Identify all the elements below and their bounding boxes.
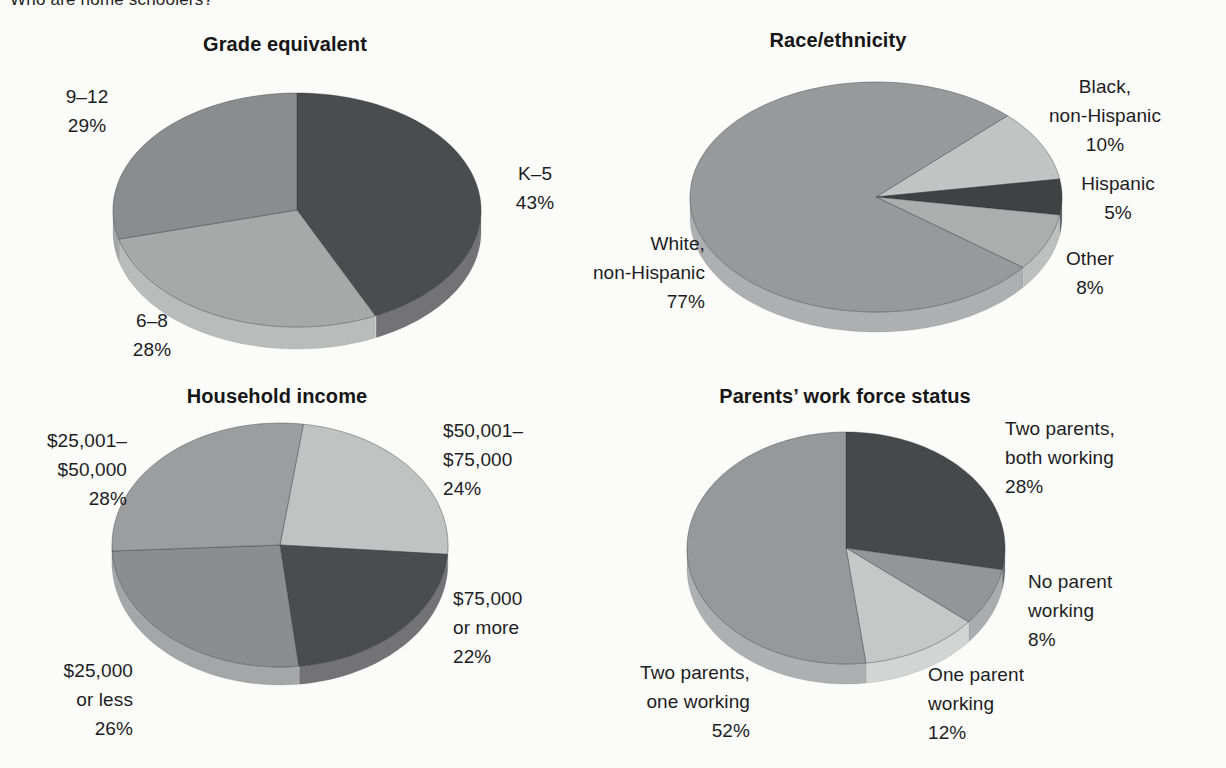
chart-title-household-income: Household income bbox=[127, 385, 427, 408]
label-line: 22% bbox=[453, 642, 593, 671]
slice-label-k-5: K–5 43% bbox=[485, 159, 585, 217]
label-line: or less bbox=[13, 685, 133, 714]
label-line: Black, bbox=[1030, 72, 1180, 101]
label-line: 8% bbox=[1015, 273, 1165, 302]
label-line: $25,000 bbox=[13, 656, 133, 685]
label-line: K–5 bbox=[485, 159, 585, 188]
slice-label-9-12: 9–12 29% bbox=[37, 82, 137, 140]
slice-label-black-non-hispanic: Black, non-Hispanic 10% bbox=[1030, 72, 1180, 159]
label-line: working bbox=[928, 689, 1058, 718]
label-line: 8% bbox=[1028, 625, 1158, 654]
pie-household-income bbox=[112, 423, 448, 685]
chart-title-grade-equivalent: Grade equivalent bbox=[135, 33, 435, 56]
chart-title-parents-work-force: Parents’ work force status bbox=[695, 385, 995, 408]
pie-race-ethnicity bbox=[690, 82, 1062, 332]
label-line: $50,000 bbox=[7, 455, 127, 484]
label-line: White, bbox=[555, 229, 705, 258]
label-line: 28% bbox=[1005, 472, 1145, 501]
label-line: 9–12 bbox=[37, 82, 137, 111]
slice-label-two-parents-both-working: Two parents, both working 28% bbox=[1005, 414, 1145, 501]
label-line: 43% bbox=[485, 188, 585, 217]
slice-label-75000-or-more: $75,000 or more 22% bbox=[453, 584, 593, 671]
slice-label-one-parent-working: One parent working 12% bbox=[928, 660, 1058, 747]
slice-label-25001-50000: $25,001– $50,000 28% bbox=[7, 426, 127, 513]
label-line: 52% bbox=[620, 716, 750, 745]
label-line: $50,001– bbox=[443, 416, 583, 445]
label-line: both working bbox=[1005, 443, 1145, 472]
label-line: $75,000 bbox=[443, 445, 583, 474]
label-line: 5% bbox=[1043, 198, 1193, 227]
label-line: 77% bbox=[555, 287, 705, 316]
label-line: $25,001– bbox=[7, 426, 127, 455]
label-line: $75,000 bbox=[453, 584, 593, 613]
label-line: or more bbox=[453, 613, 593, 642]
label-line: one working bbox=[620, 687, 750, 716]
label-line: One parent bbox=[928, 660, 1058, 689]
label-line: 28% bbox=[7, 484, 127, 513]
label-line: non-Hispanic bbox=[555, 258, 705, 287]
slice-label-white-non-hispanic: White, non-Hispanic 77% bbox=[555, 229, 705, 316]
label-line: 6–8 bbox=[102, 306, 202, 335]
scanned-figure-page: Who are home schoolers? Grade equivalent… bbox=[0, 0, 1226, 768]
slice-label-no-parent-working: No parent working 8% bbox=[1028, 567, 1158, 654]
label-line: non-Hispanic bbox=[1030, 101, 1180, 130]
chart-title-race-ethnicity: Race/ethnicity bbox=[688, 29, 988, 52]
label-line: 26% bbox=[13, 714, 133, 743]
label-line: 28% bbox=[102, 335, 202, 364]
label-line: No parent bbox=[1028, 567, 1158, 596]
slice-label-other: Other 8% bbox=[1015, 244, 1165, 302]
slice-label-25000-or-less: $25,000 or less 26% bbox=[13, 656, 133, 743]
slice-label-hispanic: Hispanic 5% bbox=[1043, 169, 1193, 227]
label-line: Two parents, bbox=[620, 658, 750, 687]
label-line: Two parents, bbox=[1005, 414, 1145, 443]
slice-label-6-8: 6–8 28% bbox=[102, 306, 202, 364]
label-line: working bbox=[1028, 596, 1158, 625]
slice-label-two-parents-one-working: Two parents, one working 52% bbox=[620, 658, 750, 745]
pie-parents-work-force bbox=[687, 432, 1005, 684]
label-line: Other bbox=[1015, 244, 1165, 273]
label-line: Hispanic bbox=[1043, 169, 1193, 198]
label-line: 10% bbox=[1030, 130, 1180, 159]
label-line: 12% bbox=[928, 718, 1058, 747]
label-line: 24% bbox=[443, 474, 583, 503]
slice-label-50001-75000: $50,001– $75,000 24% bbox=[443, 416, 583, 503]
label-line: 29% bbox=[37, 111, 137, 140]
